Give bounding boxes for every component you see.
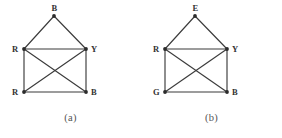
vertex-label-bottom-right: B bbox=[91, 88, 97, 97]
graph-figure: BRYRB (a) ERYGB (b) bbox=[0, 0, 282, 138]
graph-vertex-bottom-right bbox=[84, 90, 88, 94]
graph-vertex-bottom-left bbox=[22, 90, 26, 94]
graph-vertex-middle-right bbox=[225, 47, 229, 51]
graph-drawing-a bbox=[0, 0, 141, 110]
graph-vertex-top bbox=[52, 14, 56, 18]
graph-edge-top-to-middle-right bbox=[195, 16, 227, 49]
graph-panel-b: ERYGB (b) bbox=[141, 0, 282, 138]
caption-b: (b) bbox=[141, 112, 282, 123]
caption-a: (a) bbox=[0, 112, 141, 123]
vertex-label-middle-right: Y bbox=[91, 45, 97, 54]
vertex-label-top: E bbox=[193, 4, 199, 13]
graph-edge-top-to-middle-right bbox=[54, 16, 86, 49]
vertex-label-middle-left: R bbox=[12, 45, 18, 54]
graph-vertex-bottom-left bbox=[163, 90, 167, 94]
vertex-label-bottom-left: G bbox=[153, 88, 160, 97]
graph-vertex-middle-left bbox=[22, 47, 26, 51]
graph-vertex-bottom-right bbox=[225, 90, 229, 94]
graph-vertex-middle-right bbox=[84, 47, 88, 51]
graph-vertex-middle-left bbox=[163, 47, 167, 51]
vertex-label-bottom-left: R bbox=[12, 88, 18, 97]
graph-edge-top-to-middle-left bbox=[165, 16, 195, 49]
graph-edge-top-to-middle-left bbox=[24, 16, 54, 49]
graph-panel-a: BRYRB (a) bbox=[0, 0, 141, 138]
vertex-label-top: B bbox=[52, 4, 58, 13]
vertex-label-bottom-right: B bbox=[232, 88, 238, 97]
graph-drawing-b bbox=[141, 0, 282, 110]
graph-vertex-top bbox=[193, 14, 197, 18]
vertex-label-middle-right: Y bbox=[232, 45, 238, 54]
vertex-label-middle-left: R bbox=[153, 45, 159, 54]
